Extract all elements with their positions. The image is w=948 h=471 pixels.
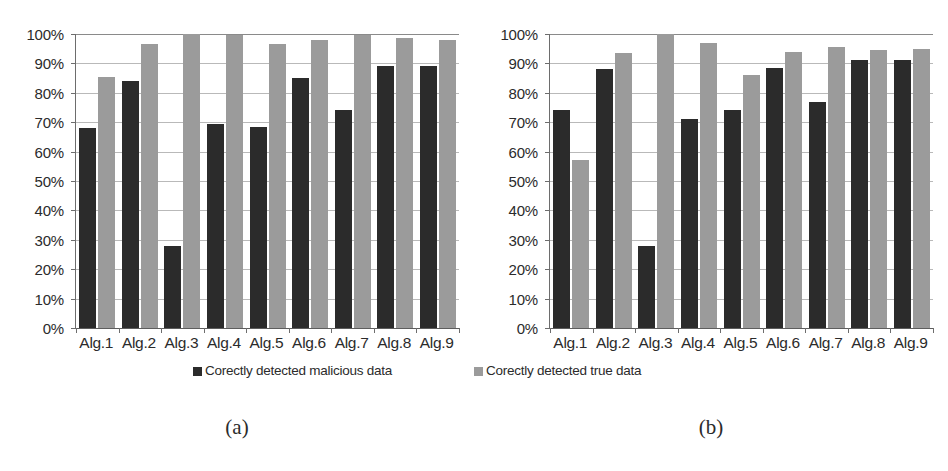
x-tick-mark [161, 328, 162, 333]
bar-malicious-Alg-1 [553, 110, 570, 328]
plot-wrap: 100%90%80%70%60%50%40%30%20%10%0%Alg.1Al… [474, 0, 948, 345]
y-axis-labels: 100%90%80%70%60%50%40%30%20%10%0% [8, 0, 68, 345]
y-tick-mark [71, 34, 76, 35]
legend: Corectly detected true data [474, 363, 948, 385]
x-tick-label-Alg-8: Alg.8 [847, 334, 890, 352]
y-tick-mark [545, 93, 550, 94]
bar-malicious-Alg-9 [420, 66, 437, 328]
y-tick-label: 80% [8, 85, 64, 100]
panel-caption-b: (b) [474, 415, 948, 440]
bar-true-Alg-4 [226, 35, 243, 328]
y-tick-label: 50% [482, 174, 538, 189]
x-tick-label-Alg-7: Alg.7 [330, 334, 373, 352]
x-tick-mark [763, 328, 764, 333]
legend: Corectly detected malicious data [0, 363, 474, 385]
x-tick-label-Alg-7: Alg.7 [804, 334, 847, 352]
bar-true-Alg-3 [183, 34, 200, 328]
x-tick-mark [848, 328, 849, 333]
x-axis-labels: Alg.1Alg.2Alg.3Alg.4Alg.5Alg.6Alg.7Alg.8… [474, 334, 948, 358]
bar-malicious-Alg-8 [377, 66, 394, 328]
legend-entry-true[interactable]: Corectly detected true data [474, 363, 641, 379]
x-tick-mark [635, 328, 636, 333]
y-tick-mark [71, 210, 76, 211]
y-tick-label: 90% [482, 56, 538, 71]
y-axis-labels: 100%90%80%70%60%50%40%30%20%10%0% [482, 0, 542, 345]
y-tick-mark [71, 152, 76, 153]
x-tick-label-Alg-8: Alg.8 [373, 334, 416, 352]
figure-two-panel-bar-charts: 100%90%80%70%60%50%40%30%20%10%0%Alg.1Al… [0, 0, 948, 471]
bar-malicious-Alg-4 [207, 124, 224, 328]
x-tick-mark [459, 328, 460, 333]
bar-true-Alg-1 [98, 77, 115, 328]
bar-malicious-Alg-5 [724, 110, 741, 328]
y-tick-label: 40% [8, 203, 64, 218]
y-tick-mark [71, 299, 76, 300]
x-axis-labels: Alg.1Alg.2Alg.3Alg.4Alg.5Alg.6Alg.7Alg.8… [0, 334, 474, 358]
bar-true-Alg-1 [572, 160, 589, 328]
bar-malicious-Alg-4 [681, 119, 698, 328]
bar-true-Alg-4 [700, 43, 717, 328]
y-tick-mark [71, 240, 76, 241]
y-tick-mark [545, 34, 550, 35]
y-tick-label: 20% [8, 262, 64, 277]
bar-malicious-Alg-2 [122, 81, 139, 328]
x-tick-label-Alg-1: Alg.1 [75, 334, 118, 352]
bar-true-Alg-6 [785, 52, 802, 328]
gridline [550, 34, 933, 35]
bar-true-Alg-8 [870, 50, 887, 328]
x-tick-mark [933, 328, 934, 333]
y-tick-label: 90% [8, 56, 64, 71]
y-tick-mark [71, 63, 76, 64]
y-tick-mark [71, 181, 76, 182]
bar-malicious-Alg-8 [851, 60, 868, 328]
x-tick-label-Alg-9: Alg.9 [889, 334, 932, 352]
y-tick-mark [71, 93, 76, 94]
bar-malicious-Alg-9 [894, 60, 911, 328]
bar-malicious-Alg-1 [79, 128, 96, 328]
bar-malicious-Alg-6 [292, 78, 309, 328]
x-tick-mark [550, 328, 551, 333]
y-tick-label: 70% [482, 115, 538, 130]
y-tick-label: 100% [8, 27, 64, 42]
y-tick-label: 60% [8, 144, 64, 159]
x-tick-mark [890, 328, 891, 333]
bar-true-Alg-2 [141, 44, 158, 328]
x-tick-mark [246, 328, 247, 333]
legend-swatch-true [474, 367, 483, 376]
x-tick-label-Alg-2: Alg.2 [118, 334, 161, 352]
x-tick-label-Alg-5: Alg.5 [719, 334, 762, 352]
bar-true-Alg-5 [269, 44, 286, 328]
x-tick-label-Alg-5: Alg.5 [245, 334, 288, 352]
y-tick-label: 40% [482, 203, 538, 218]
bar-true-Alg-6 [311, 40, 328, 328]
x-tick-label-Alg-1: Alg.1 [549, 334, 592, 352]
legend-entry-malicious[interactable]: Corectly detected malicious data [193, 363, 392, 379]
y-tick-mark [545, 240, 550, 241]
x-axis-line [76, 328, 459, 329]
bar-true-Alg-3 [657, 34, 674, 328]
plot-wrap: 100%90%80%70%60%50%40%30%20%10%0%Alg.1Al… [0, 0, 474, 345]
x-tick-label-Alg-4: Alg.4 [677, 334, 720, 352]
bar-malicious-Alg-2 [596, 69, 613, 328]
bar-malicious-Alg-3 [164, 246, 181, 328]
y-tick-label: 100% [482, 27, 538, 42]
y-tick-mark [71, 269, 76, 270]
bar-malicious-Alg-6 [766, 68, 783, 328]
y-tick-mark [545, 63, 550, 64]
x-tick-mark [204, 328, 205, 333]
x-tick-mark [678, 328, 679, 333]
x-tick-mark [76, 328, 77, 333]
x-tick-mark [593, 328, 594, 333]
bar-true-Alg-9 [439, 40, 456, 328]
x-tick-label-Alg-6: Alg.6 [762, 334, 805, 352]
bar-true-Alg-8 [396, 38, 413, 328]
y-tick-mark [71, 122, 76, 123]
x-tick-mark [289, 328, 290, 333]
plot-area [549, 34, 933, 328]
legend-swatch-malicious [193, 367, 202, 376]
y-tick-label: 80% [482, 85, 538, 100]
chart-panel-b: 100%90%80%70%60%50%40%30%20%10%0%Alg.1Al… [474, 0, 948, 471]
legend-label-malicious: Corectly detected malicious data [205, 363, 392, 379]
gridline [76, 34, 459, 35]
panel-caption-a: (a) [0, 415, 474, 440]
